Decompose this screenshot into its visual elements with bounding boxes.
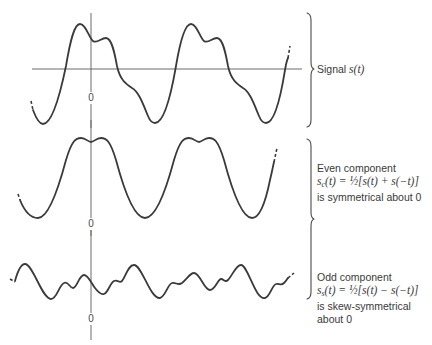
signal-brace <box>307 13 314 127</box>
even-label: Even component sc(t) = ½[s(t) + s(−t)] i… <box>317 162 421 204</box>
odd-formula: ss(t) = ½[s(t) − s(−t)] <box>317 284 418 301</box>
signal-label-text: Signal <box>317 63 349 75</box>
even-brace <box>307 139 314 299</box>
odd-curve <box>15 264 288 299</box>
odd-note-line-1: is skew-symmetrical <box>317 300 418 313</box>
odd-panel <box>10 230 294 340</box>
signal-decomposition-figure: 0 0 0 Signal s(t) Even component sc(t) =… <box>0 0 432 345</box>
odd-zero-label: 0 <box>88 313 94 325</box>
odd-formula-rhs: = ½[s(t) − s(−t)] <box>335 284 418 296</box>
even-panel <box>18 120 314 299</box>
even-formula: sc(t) = ½[s(t) + s(−t)] <box>317 175 421 192</box>
signal-curve-right-continuation <box>288 46 290 58</box>
even-curve <box>20 138 274 218</box>
odd-note-line-2: about 0 <box>317 313 418 326</box>
odd-curve-right-continuation <box>288 273 294 278</box>
odd-formula-arg: (t) <box>325 284 336 296</box>
even-note: is symmetrical about 0 <box>317 191 421 204</box>
signal-panel <box>31 13 314 128</box>
even-formula-arg: (t) <box>325 175 336 187</box>
signal-curve <box>33 24 288 124</box>
signal-curve-left-continuation <box>31 101 33 110</box>
signal-label: Signal s(t) <box>317 63 364 76</box>
even-curve-right-continuation <box>274 148 277 162</box>
odd-label: Odd component ss(t) = ½[s(t) − s(−t)] is… <box>317 271 418 325</box>
even-zero-label: 0 <box>88 218 94 230</box>
signal-label-math: s(t) <box>349 63 364 75</box>
odd-title: Odd component <box>317 271 418 284</box>
even-title: Even component <box>317 162 421 175</box>
even-curve-left-continuation <box>18 194 20 200</box>
signal-zero-label: 0 <box>88 92 94 104</box>
even-formula-rhs: = ½[s(t) + s(−t)] <box>336 175 419 187</box>
